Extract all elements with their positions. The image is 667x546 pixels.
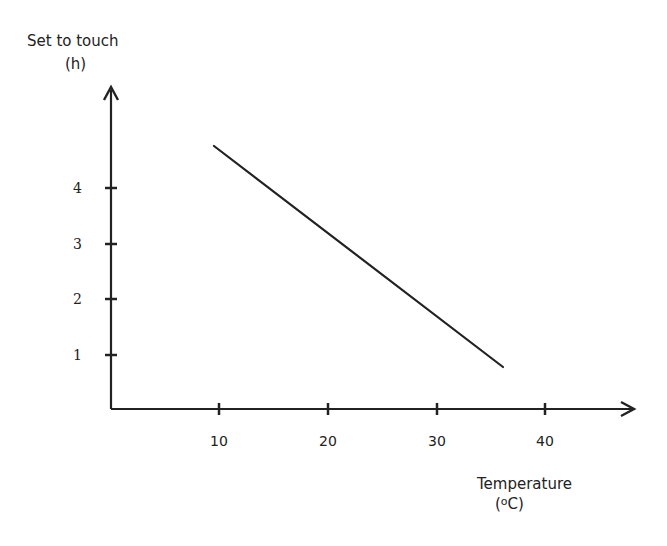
x-axis-unit: (oC) <box>495 496 524 512</box>
y-tick-label: 2 <box>62 292 82 306</box>
x-axis-title: Temperature <box>477 477 572 492</box>
y-axis-unit: (h) <box>65 57 86 72</box>
y-tick-label: 1 <box>62 348 82 362</box>
x-axis-unit-suffix: C) <box>508 495 524 513</box>
y-tick-label: 3 <box>62 237 82 251</box>
degree-symbol: o <box>501 495 508 508</box>
x-tick-label: 10 <box>204 434 234 448</box>
y-tick-label: 4 <box>62 181 82 195</box>
x-tick-label: 20 <box>313 434 343 448</box>
y-axis-title: Set to touch <box>27 34 119 49</box>
x-tick-label: 30 <box>422 434 452 448</box>
chart-plot <box>0 0 667 546</box>
x-tick-label: 40 <box>530 434 560 448</box>
data-series-line <box>214 146 503 367</box>
